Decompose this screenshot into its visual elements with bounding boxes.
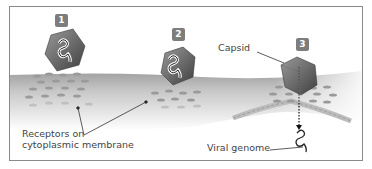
step-badge-3: 3	[296, 38, 309, 51]
genome-leader-line	[270, 147, 303, 150]
virus-stage-1	[45, 29, 85, 71]
receptors-label-line1: Receptors on	[22, 128, 84, 139]
capsid-label: Capsid	[218, 42, 250, 53]
step-badge-2: 2	[172, 28, 185, 41]
viral-genome-label: Viral genome	[207, 142, 270, 153]
capsid-leader-line	[257, 52, 284, 63]
receptors-label-line2: cytoplasmic membrane	[22, 139, 134, 150]
step-badge-1: 1	[55, 14, 68, 27]
